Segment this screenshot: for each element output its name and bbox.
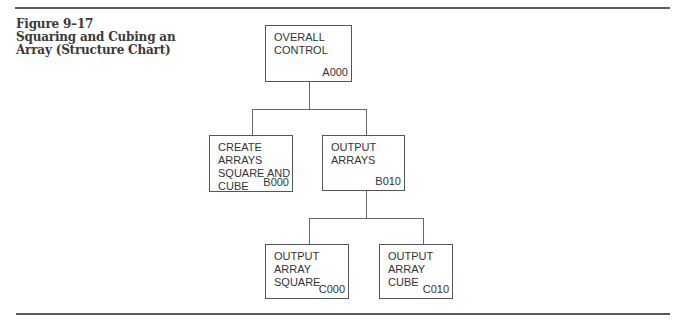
node-label-line: CONTROL (274, 44, 328, 57)
connector-to-c000 (309, 218, 310, 244)
node-label-line: SQUARE (274, 276, 320, 289)
node-code: C000 (319, 283, 345, 296)
node-c010-output-array-cube: OUTPUT ARRAY CUBE C010 (379, 244, 453, 299)
connector-to-c010 (423, 218, 424, 244)
node-code: C010 (423, 283, 449, 296)
node-label-line: ARRAYS (218, 154, 290, 167)
node-label-line: OVERALL (274, 31, 328, 44)
node-code: B010 (375, 175, 401, 188)
figure-caption: Figure 9–17 Squaring and Cubing an Array… (16, 18, 175, 57)
node-code: B000 (263, 176, 289, 189)
node-label-line: CREATE (218, 141, 290, 154)
connector-b010-down (366, 190, 367, 218)
top-rule (15, 7, 670, 9)
node-b000-create-arrays: CREATE ARRAYS SQUARE AND CUBE B000 (209, 135, 293, 192)
figure-title-line-2: Array (Structure Chart) (16, 44, 175, 57)
connector-to-b000 (252, 109, 253, 135)
node-label-line: ARRAY (274, 263, 320, 276)
connector-a000-down (309, 81, 310, 109)
node-code: A000 (322, 66, 348, 79)
node-label-line: OUTPUT (274, 250, 320, 263)
node-label-line: OUTPUT (331, 141, 376, 154)
node-c000-output-array-square: OUTPUT ARRAY SQUARE C000 (265, 244, 349, 299)
connector-level-c (309, 218, 424, 219)
node-label-line: ARRAY (388, 263, 433, 276)
connector-to-b010 (366, 109, 367, 135)
node-label-line: OUTPUT (388, 250, 433, 263)
node-b010-output-arrays: OUTPUT ARRAYS B010 (322, 135, 405, 191)
connector-level-b (252, 109, 367, 110)
node-a000-overall-control: OVERALL CONTROL A000 (265, 25, 352, 82)
bottom-rule (16, 313, 670, 315)
node-label-line: ARRAYS (331, 154, 376, 167)
